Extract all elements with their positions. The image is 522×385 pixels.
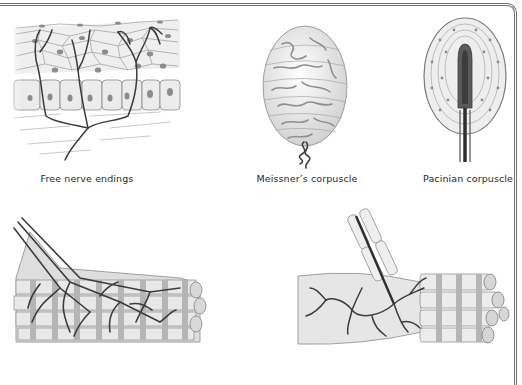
- panel-neuromuscular-spindle: Neuromuscular spindle: [0, 192, 220, 385]
- meissners-corpuscle-illustration: [250, 0, 380, 170]
- free-nerve-endings-illustration: [0, 0, 190, 170]
- label-pacinian-corpuscle: Pacinian corpuscle: [423, 173, 513, 184]
- panel-meissners-corpuscle: Meissner’s corpuscle: [250, 0, 380, 192]
- label-free-nerve-endings: Free nerve endings: [41, 173, 134, 184]
- pacinian-corpuscle-illustration: [410, 0, 522, 170]
- panel-golgi-tendon-organ: Golgi tendon organ: [290, 192, 522, 385]
- panel-free-nerve-endings: Free nerve endings: [0, 0, 190, 192]
- label-meissners-corpuscle: Meissner’s corpuscle: [257, 173, 358, 184]
- panel-pacinian-corpuscle: Pacinian corpuscle: [410, 0, 522, 192]
- golgi-tendon-organ-illustration: [290, 192, 522, 352]
- neuromuscular-spindle-illustration: [0, 192, 220, 352]
